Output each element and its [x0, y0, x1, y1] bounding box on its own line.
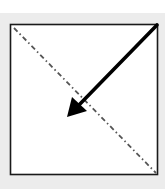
diagram-canvas	[0, 0, 165, 189]
diagram-svg	[0, 0, 165, 189]
